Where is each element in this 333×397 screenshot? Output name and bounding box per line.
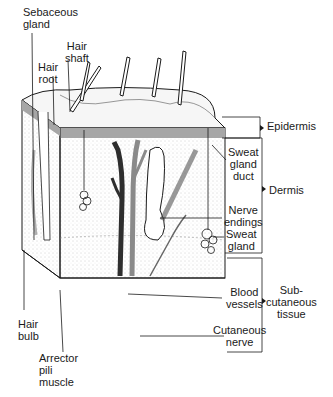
label-hair-shaft: Hair shaft: [65, 40, 89, 64]
skin-diagram: [0, 0, 333, 397]
label-nerve-endings: Nerve endings: [224, 204, 263, 228]
label-hair-root: Hair root: [38, 61, 58, 85]
label-hair-bulb: Hair bulb: [18, 318, 39, 342]
label-sweat-gland-duct: Sweat gland duct: [228, 146, 259, 182]
label-dermis: Dermis: [269, 184, 304, 196]
label-arrector-pili-muscle: Arrector pili muscle: [39, 352, 78, 388]
label-cutaneous-nerve: Cutaneous nerve: [213, 324, 266, 348]
label-sebaceous-gland: Sebaceous gland: [23, 6, 78, 30]
label-blood-vessels: Blood vessels: [226, 286, 263, 310]
label-sweat-gland: Sweat gland: [226, 228, 257, 252]
label-epidermis: Epidermis: [267, 120, 316, 132]
label-subcutaneous-tissue: Sub- cutaneous tissue: [266, 284, 317, 320]
